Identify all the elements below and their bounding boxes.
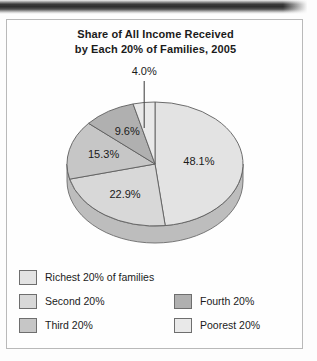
chart-legend: Richest 20% of families Second 20% Third… (19, 265, 294, 343)
pie-slice-label: 9.6% (115, 125, 140, 137)
scan-shadow-band (0, 0, 317, 14)
legend-swatch-fourth (174, 294, 192, 309)
chart-title-line-1: Share of All Income Received (77, 28, 233, 40)
legend-column-left: Richest 20% of families Second 20% Third… (19, 265, 154, 337)
figure-page: Share of All Income Received by Each 20%… (0, 0, 317, 361)
legend-label-richest: Richest 20% of families (45, 271, 154, 283)
chart-title: Share of All Income Received by Each 20%… (7, 27, 304, 57)
legend-label-third: Third 20% (45, 319, 93, 331)
legend-item: Second 20% (19, 289, 154, 313)
legend-swatch-second (19, 294, 37, 309)
legend-column-right: Fourth 20% Poorest 20% (174, 265, 260, 337)
legend-label-fourth: Fourth 20% (200, 295, 254, 307)
pie-wedges (67, 102, 243, 226)
pie-chart: 48.1%22.9%15.3%9.6%4.0% (7, 60, 304, 265)
pie-slice-label: 22.9% (109, 188, 140, 200)
legend-label-second: Second 20% (45, 295, 105, 307)
legend-item: Fourth 20% (174, 289, 260, 313)
legend-item: Third 20% (19, 313, 154, 337)
pie-slice-label: 48.1% (183, 155, 214, 167)
chart-title-line-2: by Each 20% of Families, 2005 (7, 42, 304, 57)
pie-chart-svg: 48.1%22.9%15.3%9.6%4.0% (7, 60, 304, 265)
chart-figure-box: Share of All Income Received by Each 20%… (6, 19, 303, 349)
legend-item: Richest 20% of families (19, 265, 154, 289)
legend-swatch-richest (19, 270, 37, 285)
pie-callout-label-poorest: 4.0% (132, 65, 157, 77)
pie-slice-label: 15.3% (88, 148, 119, 160)
legend-item: Poorest 20% (174, 313, 260, 337)
legend-swatch-poorest (174, 318, 192, 333)
legend-swatch-third (19, 318, 37, 333)
scan-shadow-taper (283, 0, 317, 14)
legend-label-poorest: Poorest 20% (200, 319, 260, 331)
